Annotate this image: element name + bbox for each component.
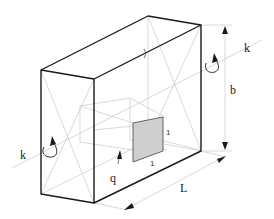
load-label-q: q (110, 171, 116, 185)
rotation-arrow-right-icon (205, 53, 218, 72)
length-label-L: L (180, 181, 187, 195)
unit-element (133, 117, 163, 162)
unit-label-horizontal: 1 (150, 159, 155, 168)
box-diagram: k k b L q 1 1 (0, 0, 274, 219)
box-outline (41, 16, 201, 203)
axis-label-left: k (20, 148, 26, 162)
axis-label-right: k (244, 41, 250, 55)
height-label-b: b (230, 83, 236, 97)
load-arrow-q (117, 150, 122, 164)
unit-label-vertical: 1 (166, 128, 171, 137)
hidden-lines (12, 16, 262, 210)
